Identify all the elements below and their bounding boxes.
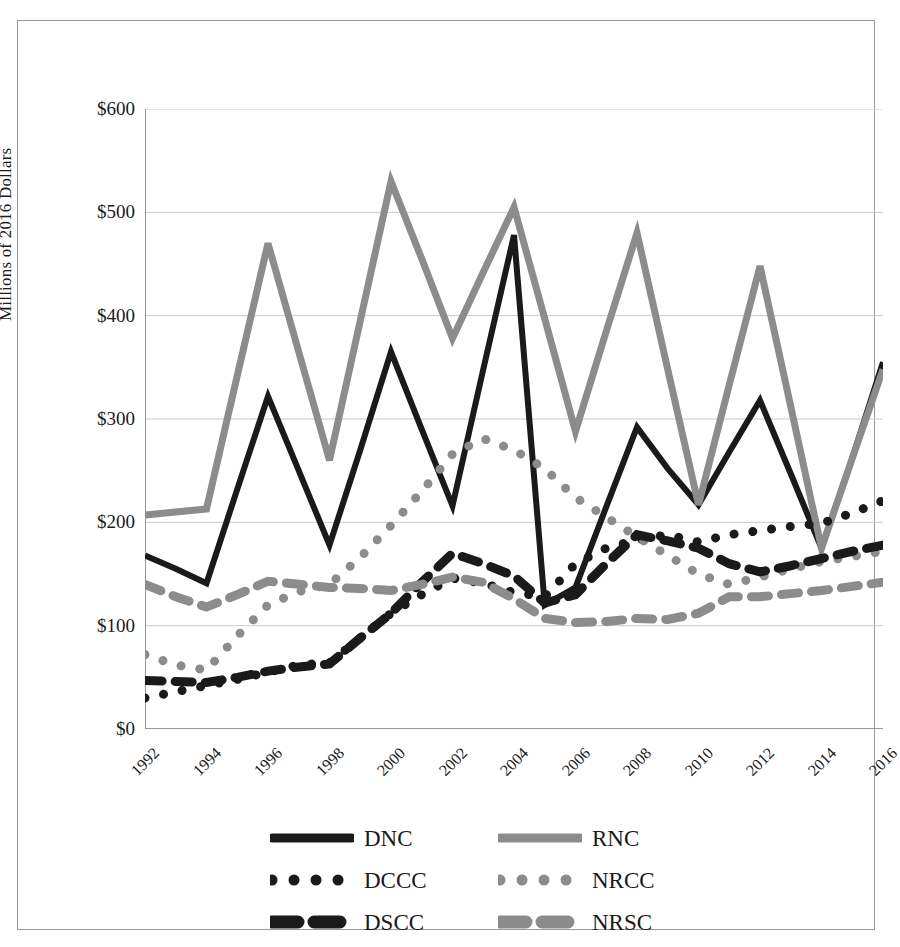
- x-tick-label: 2010: [669, 745, 716, 792]
- legend-item-rnc[interactable]: RNC: [498, 821, 639, 855]
- legend-swatch-dotted-icon: [270, 869, 354, 891]
- legend-item-nrcc[interactable]: NRCC: [498, 863, 655, 897]
- x-tick-label: 2000: [362, 745, 409, 792]
- legend-item-dnc[interactable]: DNC: [270, 821, 413, 855]
- legend-label: DCCC: [364, 869, 427, 892]
- legend-item-dccc[interactable]: DCCC: [270, 863, 427, 897]
- series-line-nrsc: [145, 577, 883, 622]
- x-tick-label: 2004: [485, 745, 532, 792]
- legend-label: NRCC: [592, 869, 655, 892]
- x-tick-label: 2002: [423, 745, 470, 792]
- y-tick-label: $500: [97, 202, 135, 221]
- x-tick-label: 2016: [854, 745, 900, 792]
- legend-swatch-dashed-icon: [498, 911, 582, 933]
- y-tick-label: $200: [97, 512, 135, 531]
- x-tick-label: 1994: [177, 745, 224, 792]
- legend-item-nrsc[interactable]: NRSC: [498, 905, 652, 939]
- x-tick-label: 1992: [116, 745, 163, 792]
- series-line-nrcc: [145, 439, 883, 670]
- legend-label: NRSC: [592, 911, 652, 934]
- y-tick-label: $300: [97, 409, 135, 428]
- series-line-dccc: [145, 501, 883, 698]
- legend-item-dscc[interactable]: DSCC: [270, 905, 424, 939]
- x-axis-tick-labels: 1992199419961998200020022004200620082010…: [145, 733, 883, 823]
- x-tick-label: 1998: [300, 745, 347, 792]
- x-tick-label: 2008: [608, 745, 655, 792]
- plot-area: [145, 109, 883, 729]
- chart-canvas: [145, 109, 883, 729]
- legend-swatch-solid-icon: [270, 827, 354, 849]
- y-tick-label: $100: [97, 616, 135, 635]
- x-tick-label: 1996: [239, 745, 286, 792]
- figure-frame: Millions of 2016 Dollars $0$100$200$300$…: [17, 20, 875, 930]
- y-axis-title: Millions of 2016 Dollars: [0, 21, 16, 321]
- y-tick-label: $600: [97, 99, 135, 118]
- legend-label: RNC: [592, 827, 639, 850]
- legend-label: DSCC: [364, 911, 424, 934]
- chart-legend: DNCRNCDCCCNRCCDSCCNRSC: [270, 821, 700, 941]
- series-line-dscc: [145, 535, 883, 683]
- x-tick-label: 2012: [731, 745, 778, 792]
- legend-label: DNC: [364, 827, 413, 850]
- x-tick-label: 2014: [792, 745, 839, 792]
- y-tick-label: $400: [97, 306, 135, 325]
- y-tick-label: $0: [116, 719, 135, 738]
- legend-swatch-solid-icon: [498, 827, 582, 849]
- legend-swatch-dashed-icon: [270, 911, 354, 933]
- x-tick-label: 2006: [546, 745, 593, 792]
- legend-swatch-dotted-icon: [498, 869, 582, 891]
- y-axis-tick-labels: $0$100$200$300$400$500$600: [63, 109, 135, 729]
